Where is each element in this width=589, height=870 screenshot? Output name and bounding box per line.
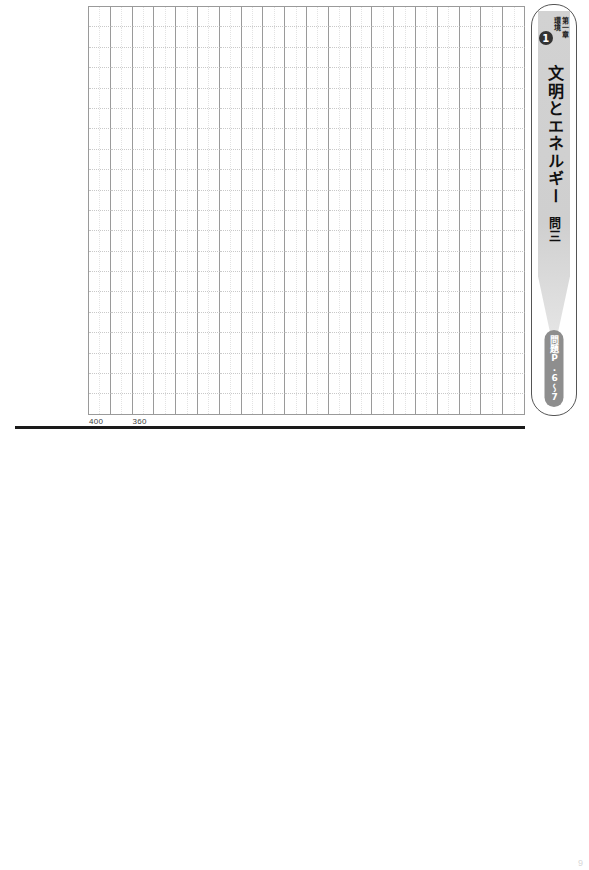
grid-cell[interactable] — [460, 333, 482, 353]
grid-cell[interactable] — [198, 27, 220, 47]
grid-cell[interactable] — [176, 191, 198, 211]
grid-cell[interactable] — [154, 231, 176, 251]
grid-cell[interactable] — [394, 354, 416, 374]
grid-cell[interactable] — [133, 231, 155, 251]
grid-cell[interactable] — [111, 231, 133, 251]
grid-cell[interactable] — [329, 109, 351, 129]
grid-cell[interactable] — [133, 292, 155, 312]
grid-cell[interactable] — [460, 354, 482, 374]
grid-cell[interactable] — [481, 7, 503, 27]
grid-cell[interactable] — [154, 313, 176, 333]
grid-cell[interactable] — [89, 354, 111, 374]
grid-cell[interactable] — [263, 272, 285, 292]
grid-cell[interactable] — [307, 231, 329, 251]
grid-cell[interactable] — [351, 211, 373, 231]
grid-cell[interactable] — [503, 48, 525, 68]
grid-cell[interactable] — [285, 354, 307, 374]
grid-cell[interactable] — [111, 354, 133, 374]
grid-cell[interactable] — [329, 272, 351, 292]
grid-cell[interactable] — [394, 191, 416, 211]
grid-cell[interactable] — [220, 109, 242, 129]
grid-cell[interactable] — [242, 292, 264, 312]
grid-cell[interactable] — [481, 68, 503, 88]
grid-cell[interactable] — [220, 252, 242, 272]
grid-cell[interactable] — [438, 191, 460, 211]
grid-cell[interactable] — [394, 170, 416, 190]
grid-cell[interactable] — [176, 231, 198, 251]
grid-cell[interactable] — [263, 211, 285, 231]
grid-cell[interactable] — [198, 7, 220, 27]
grid-cell[interactable] — [351, 109, 373, 129]
grid-cell[interactable] — [394, 68, 416, 88]
grid-cell[interactable] — [263, 292, 285, 312]
grid-cell[interactable] — [438, 89, 460, 109]
grid-cell[interactable] — [481, 252, 503, 272]
grid-cell[interactable] — [438, 333, 460, 353]
grid-cell[interactable] — [154, 109, 176, 129]
grid-cell[interactable] — [133, 7, 155, 27]
grid-cell[interactable] — [329, 170, 351, 190]
grid-cell[interactable] — [285, 191, 307, 211]
grid-cell[interactable] — [372, 231, 394, 251]
grid-cell[interactable] — [460, 129, 482, 149]
grid-cell[interactable] — [89, 211, 111, 231]
grid-cell[interactable] — [503, 170, 525, 190]
grid-cell[interactable] — [394, 333, 416, 353]
grid-cell[interactable] — [307, 170, 329, 190]
grid-cell[interactable] — [89, 89, 111, 109]
grid-cell[interactable] — [220, 211, 242, 231]
grid-cell[interactable] — [438, 394, 460, 414]
grid-cell[interactable] — [351, 170, 373, 190]
grid-cell[interactable] — [503, 68, 525, 88]
grid-cell[interactable] — [394, 150, 416, 170]
grid-cell[interactable] — [89, 191, 111, 211]
grid-cell[interactable] — [438, 27, 460, 47]
grid-cell[interactable] — [198, 89, 220, 109]
grid-cell[interactable] — [133, 333, 155, 353]
grid-cell[interactable] — [307, 333, 329, 353]
grid-cell[interactable] — [481, 27, 503, 47]
grid-cell[interactable] — [89, 394, 111, 414]
grid-cell[interactable] — [503, 109, 525, 129]
grid-cell[interactable] — [351, 272, 373, 292]
grid-cell[interactable] — [285, 68, 307, 88]
grid-cell[interactable] — [351, 48, 373, 68]
grid-cell[interactable] — [263, 109, 285, 129]
grid-cell[interactable] — [416, 272, 438, 292]
grid-cell[interactable] — [438, 129, 460, 149]
grid-cell[interactable] — [242, 354, 264, 374]
grid-cell[interactable] — [111, 211, 133, 231]
grid-cell[interactable] — [307, 272, 329, 292]
grid-cell[interactable] — [220, 7, 242, 27]
grid-cell[interactable] — [285, 313, 307, 333]
grid-cell[interactable] — [111, 170, 133, 190]
grid-cell[interactable] — [89, 333, 111, 353]
grid-cell[interactable] — [394, 374, 416, 394]
grid-cell[interactable] — [154, 333, 176, 353]
grid-cell[interactable] — [416, 374, 438, 394]
grid-cell[interactable] — [460, 7, 482, 27]
grid-cell[interactable] — [372, 109, 394, 129]
grid-cell[interactable] — [481, 394, 503, 414]
grid-cell[interactable] — [176, 333, 198, 353]
grid-cell[interactable] — [242, 48, 264, 68]
grid-cell[interactable] — [242, 109, 264, 129]
grid-cell[interactable] — [154, 48, 176, 68]
grid-cell[interactable] — [176, 109, 198, 129]
grid-cell[interactable] — [285, 292, 307, 312]
grid-cell[interactable] — [351, 231, 373, 251]
grid-cell[interactable] — [220, 191, 242, 211]
grid-cell[interactable] — [416, 129, 438, 149]
grid-cell[interactable] — [176, 89, 198, 109]
grid-cell[interactable] — [111, 191, 133, 211]
grid-cell[interactable] — [329, 7, 351, 27]
grid-cell[interactable] — [111, 89, 133, 109]
grid-cell[interactable] — [220, 333, 242, 353]
grid-cell[interactable] — [438, 292, 460, 312]
grid-cell[interactable] — [242, 170, 264, 190]
grid-cell[interactable] — [503, 374, 525, 394]
grid-cell[interactable] — [111, 27, 133, 47]
grid-cell[interactable] — [460, 313, 482, 333]
grid-cell[interactable] — [307, 374, 329, 394]
grid-cell[interactable] — [329, 48, 351, 68]
